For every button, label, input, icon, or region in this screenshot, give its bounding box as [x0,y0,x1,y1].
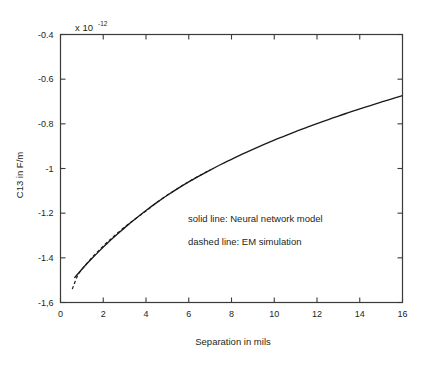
y-exponent-power: -12 [98,20,108,27]
y-tick-label: -1 [45,164,53,174]
chart-figure: 0246810121416 -1,6-1.4-1.2-1-0.8-0.6-0.4… [0,0,429,367]
x-axis-title: Separation in mils [195,336,271,347]
x-tick-label: 16 [397,309,407,319]
x-tick-label: 14 [355,309,365,319]
x-tick-label: 8 [229,309,234,319]
legend-entry-dashed: dashed line: EM simulation [188,236,302,247]
x-tick-label: 4 [143,309,148,319]
y-tick-label: -1.4 [38,253,54,263]
y-tick-label: -1,6 [38,298,54,308]
x-tick-label: 6 [186,309,191,319]
y-tick-label: -1.2 [38,208,54,218]
y-tick-label: -0.4 [38,30,54,40]
y-axis-title: C13 in F/m [14,152,25,199]
x-tick-label: 2 [101,309,106,319]
x-tick-label: 12 [312,309,322,319]
y-exponent-base: x 10 [75,22,93,33]
legend-entry-solid: solid line: Neural network model [188,213,323,224]
y-tick-label: -0.6 [38,74,54,84]
x-tick-label: 0 [58,309,63,319]
y-tick-label: -0.8 [38,119,54,129]
x-tick-label: 10 [269,309,279,319]
